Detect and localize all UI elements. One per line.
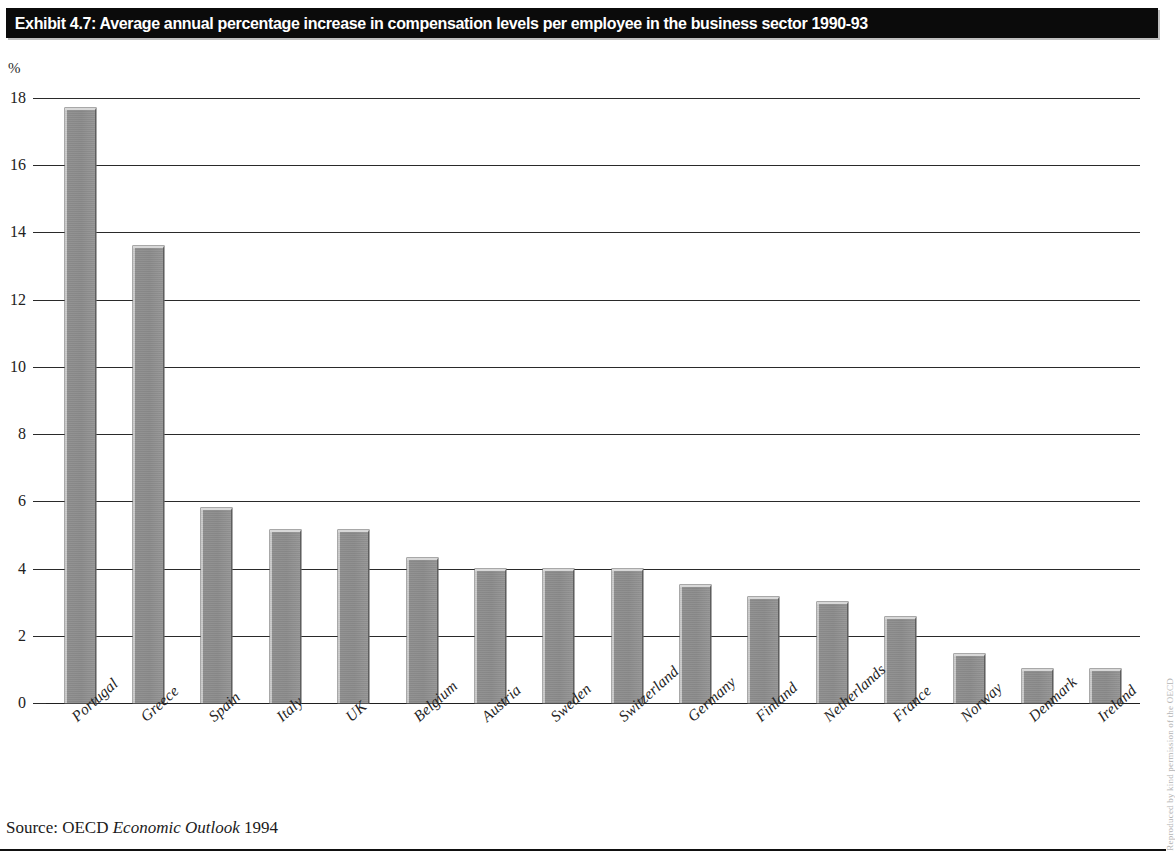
bar-portugal (65, 108, 96, 703)
exhibit-title-banner: Exhibit 4.7: Average annual percentage i… (6, 8, 1158, 38)
y-tick-label-2: 2 (18, 627, 26, 645)
source-prefix: Source: OECD (6, 818, 108, 837)
bar-germany (680, 585, 711, 703)
bar-uk (338, 530, 369, 703)
y-tick-label-12: 12 (10, 291, 26, 309)
y-tick-mark-4 (33, 569, 46, 570)
y-tick-label-10: 10 (10, 358, 26, 376)
x-axis-labels-group: PortugalGreeceSpainItalyUKBelgiumAustria… (46, 706, 1140, 802)
y-tick-mark-12 (33, 300, 46, 301)
bar-italy (270, 530, 301, 703)
bar-slot (1022, 98, 1053, 703)
bar-slot (270, 98, 301, 703)
y-tick-label-6: 6 (18, 492, 26, 510)
y-tick-mark-2 (33, 636, 46, 637)
source-year: 1994 (244, 818, 278, 837)
bar-slot (475, 98, 506, 703)
y-axis-unit-label: % (8, 60, 21, 77)
bar-slot (201, 98, 232, 703)
bar-greece (133, 246, 164, 703)
y-tick-label-0: 0 (18, 694, 26, 712)
bar-belgium (407, 558, 438, 703)
bar-slot (954, 98, 985, 703)
bar-slot (65, 98, 96, 703)
bar-slot (885, 98, 916, 703)
bar-slot (543, 98, 574, 703)
source-publication: Economic Outlook (113, 818, 240, 837)
y-tick-mark-0 (33, 703, 46, 704)
bar-austria (475, 569, 506, 703)
bar-chart: % 024681012141618 PortugalGreeceSpainIta… (0, 44, 1166, 804)
y-tick-label-4: 4 (18, 560, 26, 578)
bar-slot (338, 98, 369, 703)
page-title: Exhibit 4.7: Average annual percentage i… (6, 14, 868, 33)
y-tick-mark-6 (33, 501, 46, 502)
bar-slot (817, 98, 848, 703)
bar-slot (680, 98, 711, 703)
bar-slot (407, 98, 438, 703)
y-tick-label-8: 8 (18, 425, 26, 443)
bottom-rule-divider (0, 849, 1166, 851)
y-tick-mark-10 (33, 367, 46, 368)
bar-slot (748, 98, 779, 703)
bar-finland (748, 597, 779, 703)
bar-switzerland (612, 569, 643, 703)
bar-slot (1090, 98, 1121, 703)
y-tick-mark-16 (33, 165, 46, 166)
y-tick-label-18: 18 (10, 89, 26, 107)
bar-spain (201, 508, 232, 703)
source-note: Source: OECD Economic Outlook 1994 (6, 818, 278, 838)
y-tick-mark-14 (33, 232, 46, 233)
bar-slot (612, 98, 643, 703)
y-tick-mark-18 (33, 98, 46, 99)
y-tick-mark-8 (33, 434, 46, 435)
bar-slot (133, 98, 164, 703)
bar-netherlands (817, 602, 848, 703)
y-tick-label-16: 16 (10, 156, 26, 174)
plot-area: 024681012141618 (46, 98, 1140, 703)
y-tick-label-14: 14 (10, 223, 26, 241)
bar-sweden (543, 569, 574, 703)
bars-group (46, 98, 1140, 703)
edge-credit-text: Reproduced by kind permission of the OEC… (1165, 678, 1175, 851)
